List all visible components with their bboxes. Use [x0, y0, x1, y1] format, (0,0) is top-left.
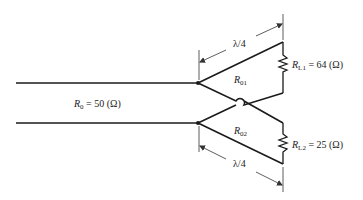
upper-length-label: λ/4: [233, 38, 246, 49]
load-2-label: RL2 = 25 (Ω): [291, 139, 343, 152]
upper-line-impedance-label: R01: [233, 74, 248, 87]
load-resistor-2-icon: [279, 123, 287, 164]
source-impedance-label: R0 = 50 (Ω): [73, 98, 121, 111]
upper-branch: [198, 42, 287, 105]
lower-length-label: λ/4: [233, 158, 246, 169]
transmission-line-diagram: R0 = 50 (Ω) λ/4 λ/4 R01 R02 RL1 = 64 (Ω)…: [0, 0, 363, 200]
lower-line-impedance-label: R02: [233, 125, 248, 138]
load-1-label: RL1 = 64 (Ω): [291, 59, 343, 72]
load-resistor-1-icon: [279, 42, 287, 93]
